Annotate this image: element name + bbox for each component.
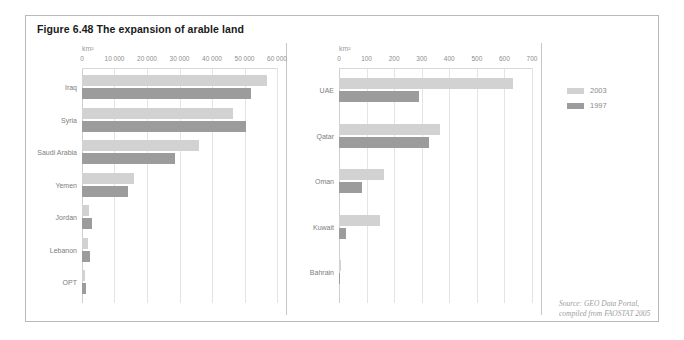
legend-label-1997: 1997 (590, 101, 607, 110)
axis-tick-label: 200 (389, 55, 400, 62)
bar-1997 (339, 273, 340, 284)
bar-1997 (82, 153, 175, 164)
axis-tick-label: 100 (361, 55, 372, 62)
bar-1997 (339, 91, 419, 102)
bar-1997 (82, 121, 246, 132)
legend-swatch-1997 (567, 103, 584, 109)
bar-2003 (82, 270, 85, 281)
axis-tick-label: 40 000 (202, 55, 222, 62)
legend-item-1997: 1997 (567, 101, 607, 110)
legend-label-2003: 2003 (590, 86, 607, 95)
axis-tick-label: 600 (499, 55, 510, 62)
bar-1997 (339, 137, 429, 148)
axis-tick-label: 50 000 (235, 55, 255, 62)
bar-1997 (82, 251, 90, 262)
bar-2003 (339, 215, 380, 226)
bar-2003 (339, 124, 440, 135)
bar-2003 (82, 140, 199, 151)
source-line-2: compiled from FAOSTAT 2005 (559, 309, 679, 319)
category-label: Iraq (65, 84, 77, 91)
bar-group: Yemen (82, 173, 277, 197)
bar-1997 (339, 228, 346, 239)
bar-2003 (339, 260, 341, 271)
source-note: Source: GEO Data Portal, compiled from F… (559, 299, 679, 319)
chart-panel-right: km² 0100200300400500600700 UAEQatarOmanK… (295, 43, 542, 315)
axis-tick-label: 20 000 (137, 55, 157, 62)
legend-swatch-2003 (567, 88, 584, 94)
axis-tick-label: 400 (444, 55, 455, 62)
axis-tick-label: 10 000 (105, 55, 125, 62)
axis-unit-label-right: km² (339, 45, 351, 52)
bar-group: Iraq (82, 75, 277, 99)
figure-container: Figure 6.48 The expansion of arable land… (25, 15, 659, 322)
category-label: Kuwait (313, 223, 334, 230)
category-label: UAE (320, 87, 334, 94)
bar-group: Saudi Arabia (82, 140, 277, 164)
bar-1997 (82, 186, 128, 197)
bar-2003 (82, 238, 88, 249)
bar-2003 (82, 205, 89, 216)
axis-tick-label: 700 (527, 55, 538, 62)
category-label: Yemen (55, 181, 77, 188)
plot-area-left: 010 00020 00030 00040 00050 00060 000 Ir… (82, 68, 277, 303)
axis-tick-label: 500 (471, 55, 482, 62)
bar-group: OPT (82, 270, 277, 294)
axis-tick-label: 30 000 (170, 55, 190, 62)
axis-tick-label: 0 (337, 55, 341, 62)
bar-2003 (339, 169, 384, 180)
category-label: Jordan (56, 214, 77, 221)
bar-group: Bahrain (339, 260, 532, 284)
category-label: Saudi Arabia (37, 149, 77, 156)
category-label: Qatar (316, 132, 334, 139)
axis-tick-label: 300 (416, 55, 427, 62)
gridline (277, 68, 278, 303)
gridline (532, 68, 533, 303)
category-label: OPT (63, 279, 77, 286)
source-line-1: Source: GEO Data Portal, (559, 299, 679, 309)
bar-1997 (82, 218, 92, 229)
category-label: Syria (61, 116, 77, 123)
bar-group: Syria (82, 108, 277, 132)
axis-tick-label: 0 (80, 55, 84, 62)
category-label: Lebanon (50, 246, 77, 253)
chart-legend: 2003 1997 (567, 86, 607, 116)
bar-group: Qatar (339, 124, 532, 148)
plot-area-right: 0100200300400500600700 UAEQatarOmanKuwai… (339, 68, 532, 303)
bar-2003 (82, 75, 267, 86)
bar-1997 (339, 182, 362, 193)
axis-unit-label-left: km² (82, 45, 94, 52)
bar-2003 (82, 108, 233, 119)
bar-group: Kuwait (339, 215, 532, 239)
bar-2003 (82, 173, 134, 184)
chart-panel-left: km² 010 00020 00030 00040 00050 00060 00… (35, 43, 287, 315)
bar-2003 (339, 78, 513, 89)
bar-group: UAE (339, 78, 532, 102)
category-label: Oman (315, 178, 334, 185)
category-label: Bahrain (310, 269, 334, 276)
axis-rule-right (339, 68, 532, 69)
bar-1997 (82, 283, 86, 294)
bar-group: Oman (339, 169, 532, 193)
legend-item-2003: 2003 (567, 86, 607, 95)
figure-title: Figure 6.48 The expansion of arable land (37, 23, 244, 35)
bar-1997 (82, 88, 251, 99)
axis-tick-label: 60 000 (267, 55, 287, 62)
axis-rule-left (82, 68, 277, 69)
bar-group: Lebanon (82, 238, 277, 262)
bar-group: Jordan (82, 205, 277, 229)
